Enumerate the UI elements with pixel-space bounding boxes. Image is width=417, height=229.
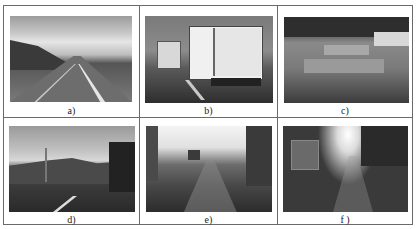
- road-photo-d: [9, 126, 135, 212]
- road-photo-e: [146, 126, 272, 212]
- panel-d: d): [4, 118, 140, 224]
- road-photo-a: [10, 16, 132, 102]
- panel-caption: a): [4, 105, 139, 116]
- road-photo-b: [145, 16, 273, 103]
- panel-caption: f ): [278, 214, 412, 225]
- panel-caption: d): [4, 214, 139, 225]
- panel-b: b): [140, 6, 278, 118]
- panel-c: c): [278, 6, 412, 118]
- panel-caption: c): [278, 105, 412, 116]
- panel-caption: e): [140, 214, 277, 225]
- road-photo-f: [283, 126, 408, 212]
- panel-caption: b): [140, 105, 277, 116]
- panel-a: a): [4, 6, 140, 118]
- figure-grid: a) b) c) d): [3, 5, 413, 225]
- panel-f: f ): [278, 118, 412, 224]
- panel-e: e): [140, 118, 278, 224]
- road-photo-c: [284, 17, 409, 103]
